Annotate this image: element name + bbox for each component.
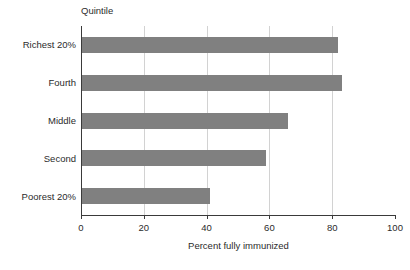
x-axis-title: Percent fully immunized (81, 240, 396, 252)
y-axis-label: Poorest 20% (22, 191, 76, 202)
x-tick-label-40: 40 (187, 222, 227, 233)
x-tick-mark-0 (81, 215, 82, 219)
x-tick-mark-80 (332, 215, 333, 219)
chart-axis-group-title: Quintile (81, 5, 113, 17)
bar (82, 188, 210, 204)
bar (82, 75, 342, 91)
x-tick-mark-60 (269, 215, 270, 219)
y-axis-label: Second (44, 153, 76, 164)
bar (82, 150, 266, 166)
x-tick-label-60: 60 (249, 222, 289, 233)
x-tick-label-100: 100 (375, 222, 410, 233)
y-axis-label: Middle (48, 115, 76, 126)
bar (82, 113, 288, 129)
gridline-80 (332, 26, 333, 215)
x-tick-label-80: 80 (312, 222, 352, 233)
y-axis-label: Fourth (49, 77, 76, 88)
x-tick-mark-100 (395, 215, 396, 219)
y-axis-label: Richest 20% (23, 39, 76, 50)
bar (82, 37, 338, 53)
x-axis-line (81, 215, 396, 216)
bar-chart-figure: Quintile 020406080100 Richest 20%FourthM… (0, 0, 410, 270)
x-tick-mark-20 (144, 215, 145, 219)
x-tick-mark-40 (207, 215, 208, 219)
x-tick-label-0: 0 (61, 222, 101, 233)
x-tick-label-20: 20 (124, 222, 164, 233)
